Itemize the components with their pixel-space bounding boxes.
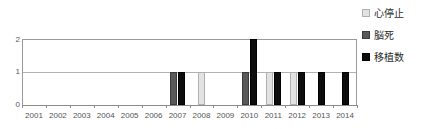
- x-tick-label-2004: 2004: [97, 111, 115, 120]
- bar-2011-series-0: [266, 72, 273, 105]
- x-tick-label-2002: 2002: [49, 111, 67, 120]
- x-tick-mark: [118, 105, 119, 108]
- bar-2012-series-0: [290, 72, 297, 105]
- x-tick-label-2012: 2012: [288, 111, 306, 120]
- legend-item-0[interactable]: 心停止: [362, 5, 432, 21]
- x-tick-mark: [285, 105, 286, 108]
- x-tick-label-2014: 2014: [336, 111, 354, 120]
- bar-2014-series-2: [342, 72, 349, 105]
- x-tick-mark: [22, 105, 23, 108]
- x-axis: 2001200220032004200520062007200820092010…: [22, 108, 357, 126]
- x-tick-mark: [166, 105, 167, 108]
- bar-2008-series-0: [198, 72, 205, 105]
- y-tick-label-2: 2: [4, 36, 20, 44]
- bar-2007-series-2: [178, 72, 185, 105]
- bar-2010-series-1: [242, 72, 249, 105]
- x-tick-label-2005: 2005: [121, 111, 139, 120]
- x-tick-mark: [94, 105, 95, 108]
- bar-2013-series-2: [318, 72, 325, 105]
- y-tick-label-0: 0: [4, 101, 20, 109]
- x-tick-mark: [309, 105, 310, 108]
- x-tick-label-2011: 2011: [265, 111, 282, 120]
- legend-item-1[interactable]: 脳死: [362, 27, 432, 43]
- legend: 心停止 脳死 移植数: [362, 5, 432, 71]
- x-tick-mark: [190, 105, 191, 108]
- x-tick-label-2003: 2003: [73, 111, 91, 120]
- legend-label-1: 脳死: [374, 30, 394, 41]
- y-axis: 2 1 0: [0, 0, 20, 129]
- x-tick-label-2010: 2010: [240, 111, 258, 120]
- x-tick-mark: [213, 105, 214, 108]
- bar-2011-series-2: [274, 72, 281, 105]
- x-tick-label-2006: 2006: [145, 111, 163, 120]
- y-tick-label-1: 1: [4, 68, 20, 76]
- legend-swatch-icon-1: [362, 31, 370, 39]
- bars-layer: [22, 39, 357, 105]
- bar-chart: 2 1 0 2001200220032004200520062007200820…: [0, 0, 435, 129]
- legend-label-0: 心停止: [374, 8, 404, 19]
- x-tick-mark-end: [357, 105, 358, 108]
- x-tick-label-2009: 2009: [216, 111, 234, 120]
- x-tick-label-2008: 2008: [193, 111, 211, 120]
- x-tick-mark: [237, 105, 238, 108]
- bar-2012-series-2: [298, 72, 305, 105]
- x-tick-mark: [261, 105, 262, 108]
- x-tick-mark: [333, 105, 334, 108]
- legend-swatch-icon-2: [362, 53, 370, 61]
- x-tick-label-2013: 2013: [312, 111, 330, 120]
- legend-item-2[interactable]: 移植数: [362, 49, 432, 65]
- x-tick-mark: [142, 105, 143, 108]
- legend-label-2: 移植数: [374, 52, 404, 63]
- bar-2007-series-1: [170, 72, 177, 105]
- x-tick-mark: [70, 105, 71, 108]
- x-tick-mark: [46, 105, 47, 108]
- bar-2010-series-2: [250, 39, 257, 105]
- legend-swatch-icon-0: [362, 9, 370, 17]
- x-tick-label-2001: 2001: [25, 111, 43, 120]
- x-tick-label-2007: 2007: [169, 111, 187, 120]
